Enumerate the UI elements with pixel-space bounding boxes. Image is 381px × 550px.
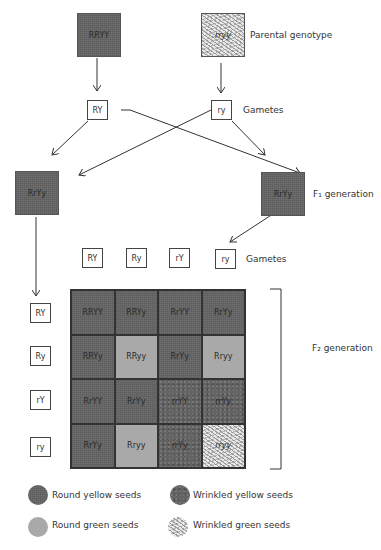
f1-generation-label: F₁ generation bbox=[313, 189, 374, 199]
cell-r4c3: rrYy bbox=[158, 424, 202, 469]
row-gamete-4: ry bbox=[30, 437, 51, 457]
gamete-ry-dominant: RY bbox=[87, 100, 108, 120]
punnett-square: RRYY RRYy RrYY RrYy RRYy RRyy RrYy Rryy … bbox=[70, 289, 246, 469]
round-green-swatch-icon bbox=[28, 517, 48, 537]
parent-rryy-recessive-box: rryy bbox=[201, 13, 245, 57]
row-gamete-1: RY bbox=[30, 303, 51, 323]
legend-round-yellow: Round yellow seeds bbox=[52, 490, 141, 500]
gamete-ry-recessive: ry bbox=[211, 100, 232, 120]
cell-r3c2: RrYy bbox=[115, 379, 159, 424]
legend-wrinkled-yellow: Wrinkled yellow seeds bbox=[193, 490, 293, 500]
cell-r1c4: RrYy bbox=[202, 290, 246, 335]
genotype-label: RRYY bbox=[89, 31, 109, 40]
cell-r4c2: Rryy bbox=[115, 424, 159, 469]
f1-gamete-3: rY bbox=[169, 248, 190, 268]
cell-r4c4: rryy bbox=[202, 424, 246, 469]
parent-rryy-dominant-box: RRYY bbox=[77, 13, 121, 57]
parental-genotype-label: Parental genotype bbox=[250, 30, 332, 40]
gametes-label: Gametes bbox=[243, 105, 284, 115]
genotype-label: RrYy bbox=[28, 189, 46, 198]
f1-gamete-1: RY bbox=[82, 248, 103, 268]
f1-gamete-2: Ry bbox=[126, 248, 147, 268]
cell-r3c1: RrYY bbox=[71, 379, 115, 424]
f1-gametes-label: Gametes bbox=[246, 254, 287, 264]
wrinkled-green-swatch-icon bbox=[168, 517, 188, 537]
genotype-label: RrYy bbox=[274, 190, 292, 199]
cell-r2c3: RrYy bbox=[158, 335, 202, 380]
cell-r4c1: RrYy bbox=[71, 424, 115, 469]
cell-r1c2: RRYy bbox=[115, 290, 159, 335]
f1-right-box: RrYy bbox=[261, 172, 305, 216]
cell-r2c4: Rryy bbox=[202, 335, 246, 380]
legend-wrinkled-green: Wrinkled green seeds bbox=[193, 520, 290, 530]
round-yellow-swatch-icon bbox=[28, 485, 48, 505]
cell-r1c1: RRYY bbox=[71, 290, 115, 335]
f1-left-box: RrYy bbox=[15, 171, 59, 215]
row-gamete-2: Ry bbox=[30, 346, 51, 366]
cell-r3c4: rrYy bbox=[202, 379, 246, 424]
cell-r2c1: RRYy bbox=[71, 335, 115, 380]
cell-r3c3: rrYY bbox=[158, 379, 202, 424]
legend-round-green: Round green seeds bbox=[52, 520, 138, 530]
cell-r1c3: RrYY bbox=[158, 290, 202, 335]
genotype-label: rryy bbox=[215, 31, 231, 40]
f1-gamete-4: ry bbox=[215, 249, 236, 269]
row-gamete-3: rY bbox=[30, 390, 51, 410]
f2-generation-label: F₂ generation bbox=[312, 343, 373, 353]
cell-r2c2: RRyy bbox=[115, 335, 159, 380]
wrinkled-yellow-swatch-icon bbox=[170, 485, 190, 505]
